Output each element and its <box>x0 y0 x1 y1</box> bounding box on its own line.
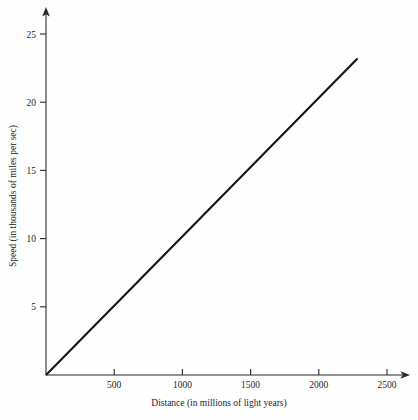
data-series-group <box>47 59 358 375</box>
line-chart-canvas: 5 10 15 20 25 500 1000 1500 2000 2500 Di… <box>0 0 418 420</box>
speed-axis-group <box>42 7 50 375</box>
y-tick-label-15: 15 <box>27 166 37 176</box>
chart-figure: 5 10 15 20 25 500 1000 1500 2000 2500 Di… <box>0 0 418 420</box>
y-tick-label-10: 10 <box>27 234 37 244</box>
x-tick-label-500: 500 <box>107 380 122 390</box>
x-tick-label-1500: 1500 <box>241 380 260 390</box>
y-axis-ticks <box>40 34 46 307</box>
y-tick-label-25: 25 <box>27 30 37 40</box>
y-tick-label-20: 20 <box>27 98 37 108</box>
x-axis-ticks <box>114 369 387 375</box>
distance-axis-group <box>46 371 410 379</box>
x-tick-label-2000: 2000 <box>309 380 328 390</box>
speed-distance-line <box>47 59 358 375</box>
y-axis-tick-labels: 5 10 15 20 25 <box>27 30 37 313</box>
x-tick-label-1000: 1000 <box>173 380 192 390</box>
x-tick-label-2500: 2500 <box>378 380 397 390</box>
y-axis-title: Speed (in thousands of miles per sec) <box>8 125 19 267</box>
y-tick-label-5: 5 <box>31 302 36 312</box>
x-axis-title: Distance (in millions of light years) <box>151 398 286 409</box>
x-axis-tick-labels: 500 1000 1500 2000 2500 <box>107 380 397 390</box>
